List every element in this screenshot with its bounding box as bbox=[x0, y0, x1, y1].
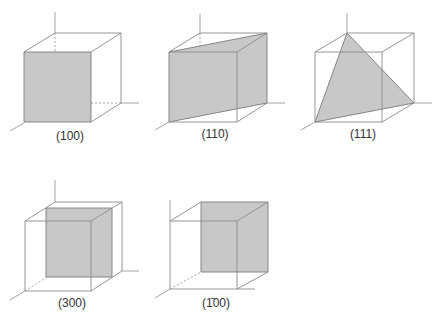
cube-neg100: (1̄00) bbox=[155, 200, 268, 310]
label-110: (110) bbox=[201, 127, 228, 141]
x-axis bbox=[10, 291, 25, 300]
label-111: (111) bbox=[350, 127, 376, 141]
label-100: (100) bbox=[56, 129, 84, 143]
cube-300: (300) bbox=[10, 180, 139, 310]
cube-111: (111) bbox=[301, 13, 432, 141]
x-axis bbox=[10, 123, 24, 131]
cube-110: (110) bbox=[155, 14, 285, 141]
x-axis bbox=[301, 122, 315, 130]
plane-111 bbox=[315, 33, 414, 122]
label-neg100: (1̄00) bbox=[202, 296, 230, 310]
x-axis bbox=[155, 289, 170, 298]
hidden-edge bbox=[170, 272, 201, 289]
plane-100 bbox=[24, 52, 91, 122]
cube-100: (100) bbox=[10, 12, 139, 143]
plane-300 bbox=[46, 208, 112, 277]
label-300: (300) bbox=[58, 296, 86, 310]
miller-indices-diagram: (100) (110) (111) bbox=[0, 0, 441, 322]
plane-neg100 bbox=[201, 202, 268, 272]
plane-110 bbox=[169, 33, 267, 122]
x-axis bbox=[155, 122, 169, 130]
